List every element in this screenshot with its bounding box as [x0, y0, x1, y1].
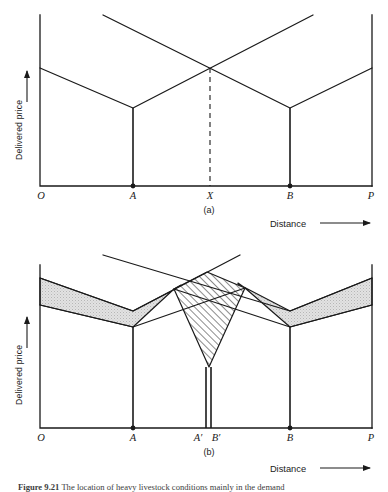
panel-a-xlabel-A: A	[129, 190, 137, 201]
figure-caption: Figure 9.21 The location of heavy livest…	[18, 482, 378, 492]
panel-b-xlabel-B: B	[287, 432, 294, 443]
panel-a-xlabel-P: P	[367, 190, 375, 201]
panel-a-xlabel-X: X	[206, 190, 214, 201]
panel-a: O A X B P Delivered price (a) Distance	[14, 15, 375, 229]
panel-b-label: (b)	[204, 447, 215, 457]
panel-b-yaxis-label: Delivered price	[14, 345, 24, 405]
panel-a-xlabel-B: B	[287, 190, 294, 201]
figure-caption-body: The location of heavy livestock conditio…	[61, 482, 284, 492]
panel-b-xlabel-O: O	[37, 432, 45, 443]
panel-b-right-freight-band	[238, 278, 372, 327]
panel-b-xlabel-A: A	[129, 432, 137, 443]
panel-a-axes	[40, 15, 372, 186]
figure-caption-number: Figure 9.21	[18, 482, 59, 492]
panel-b-xlabel-B-prime: B′	[212, 432, 221, 443]
panel-b-xlabel-P: P	[367, 432, 375, 443]
panel-a-price-line-b	[103, 15, 372, 108]
panel-b-xaxis-label: Distance	[270, 464, 306, 474]
panel-a-label: (a)	[204, 205, 215, 215]
panel-a-xlabel-O: O	[37, 190, 45, 201]
panel-b-tick-dot-b	[288, 426, 293, 431]
panel-a-tick-dot-a	[131, 184, 136, 189]
panel-a-yaxis-label: Delivered price	[14, 100, 24, 160]
panel-a-xaxis-label: Distance	[270, 219, 306, 229]
panel-a-price-line-a	[40, 15, 313, 108]
panel-b: O A A′ B′ B P Delivered price (b) Distan…	[14, 255, 375, 474]
panel-b-tick-dot-a	[131, 426, 136, 431]
panel-a-tick-dot-b	[288, 184, 293, 189]
panel-b-xlabel-A-prime: A′	[193, 432, 203, 443]
